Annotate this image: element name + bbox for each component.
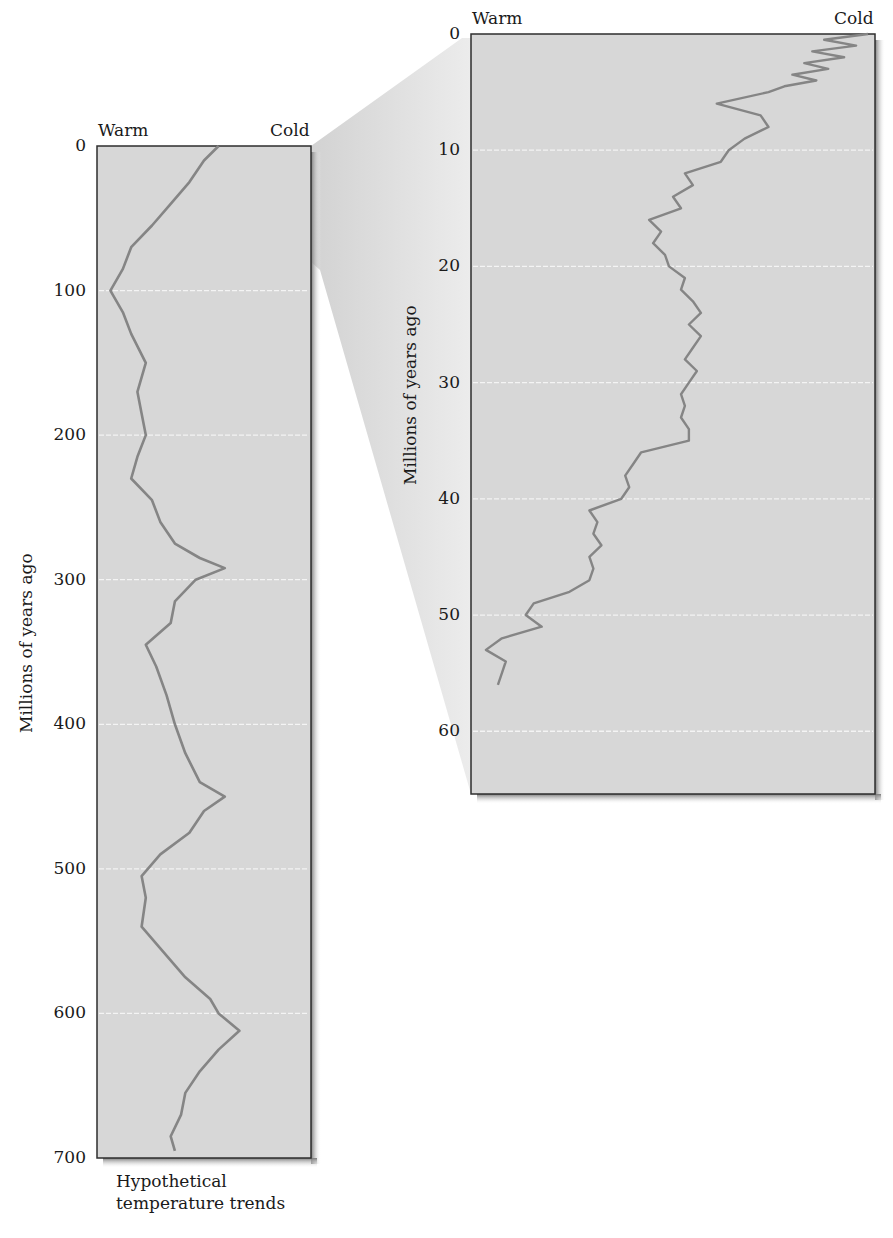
y-tick-label: 60 <box>400 720 460 740</box>
y-tick-label: 10 <box>400 139 460 159</box>
left-panel-plot-area <box>97 146 311 1158</box>
right-panel-plot-area <box>471 34 875 794</box>
y-tick-label: 0 <box>26 135 86 155</box>
right-panel-y-axis-label: Millions of years ago <box>400 305 420 485</box>
left-panel-y-axis-label: Millions of years ago <box>16 553 36 733</box>
right-panel-shadow-right <box>875 40 885 800</box>
y-tick-label: 40 <box>400 488 460 508</box>
caption-line-1: Hypothetical <box>116 1170 285 1192</box>
left-panel-cold-label: Cold <box>270 120 310 140</box>
right-panel-shadow-bottom <box>477 794 881 804</box>
left-panel-shadow-bottom <box>103 1158 317 1168</box>
y-tick-label: 500 <box>26 858 86 878</box>
caption-line-2: temperature trends <box>116 1192 285 1214</box>
left-panel-shadow-right <box>311 152 321 1164</box>
right-panel-cold-label: Cold <box>834 8 874 28</box>
y-tick-label: 50 <box>400 604 460 624</box>
right-panel-warm-label: Warm <box>472 8 522 28</box>
chart-caption: Hypothetical temperature trends <box>116 1170 285 1214</box>
y-tick-label: 700 <box>26 1147 86 1167</box>
y-tick-label: 20 <box>400 255 460 275</box>
left-panel-warm-label: Warm <box>98 120 148 140</box>
y-tick-label: 600 <box>26 1002 86 1022</box>
y-tick-label: 200 <box>26 424 86 444</box>
y-tick-label: 100 <box>26 280 86 300</box>
y-tick-label: 0 <box>400 23 460 43</box>
